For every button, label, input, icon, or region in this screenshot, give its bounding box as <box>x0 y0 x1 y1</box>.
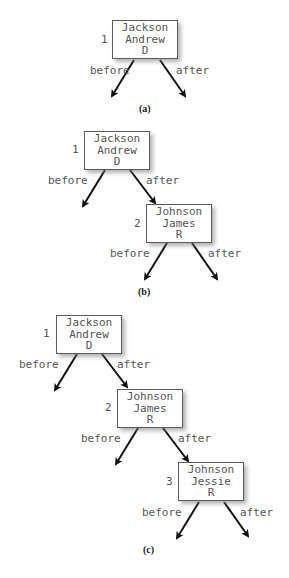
node-party: R <box>208 487 215 499</box>
node-box: Johnson James R <box>146 204 212 243</box>
node-box: Jackson Andrew D <box>84 131 150 170</box>
panel-caption: (a) <box>139 103 151 114</box>
node-index: 2 <box>134 218 141 230</box>
node-party: R <box>176 229 183 241</box>
node-index: 2 <box>105 402 112 414</box>
node-index: 1 <box>101 34 108 46</box>
after-label: after <box>117 359 150 371</box>
after-label: after <box>176 65 209 77</box>
before-label: before <box>110 248 150 260</box>
after-label: after <box>208 248 241 260</box>
before-label: before <box>19 359 59 371</box>
node-box: Johnson Jessie R <box>178 462 244 501</box>
before-label: before <box>81 433 121 445</box>
panel-caption: (b) <box>138 286 150 297</box>
before-label: before <box>142 507 182 519</box>
node-index: 3 <box>166 476 173 488</box>
node-box: Johnson James R <box>117 389 183 428</box>
node-index: 1 <box>43 328 50 340</box>
node-index: 1 <box>72 144 79 156</box>
after-label: after <box>178 433 211 445</box>
before-label: before <box>48 175 88 187</box>
node-party: D <box>142 45 149 57</box>
node-party: D <box>114 156 121 168</box>
node-box: Jackson Andrew D <box>56 315 122 354</box>
before-label: before <box>90 65 130 77</box>
panel-caption: (c) <box>143 544 154 555</box>
node-box: Jackson Andrew D <box>112 20 178 59</box>
linked-list-diagram: 1 Jackson Andrew D before after (a) 1 Ja… <box>0 0 289 578</box>
node-party: D <box>86 340 93 352</box>
after-label: after <box>240 507 273 519</box>
after-label: after <box>146 175 179 187</box>
node-party: R <box>147 414 154 426</box>
